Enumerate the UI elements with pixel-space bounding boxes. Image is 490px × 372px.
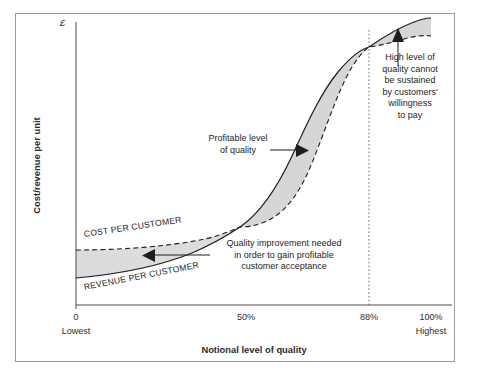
x-tick-label-50: 50% xyxy=(219,312,273,323)
x-axis-title: Notional level of quality xyxy=(75,344,433,355)
annotation-profitable-level: Profitable level of quality xyxy=(198,133,278,156)
x-tick-sublabel-lowest: Lowest xyxy=(49,326,103,337)
y-axis-currency-symbol: £ xyxy=(60,18,65,29)
region-unsustainable xyxy=(369,18,431,47)
x-tick-sublabel-highest: Highest xyxy=(404,326,458,337)
y-axis-title: Cost/revenue per unit xyxy=(31,86,42,246)
x-tick-label-88: 88% xyxy=(342,312,396,323)
annotation-high-level-quality: High level of quality cannot be sustaine… xyxy=(372,52,448,121)
x-tick-label-100: 100% xyxy=(404,312,458,323)
chart-figure: £ Cost/revenue per unit Notional level o… xyxy=(0,0,490,372)
x-tick-label-0: 0 xyxy=(49,312,103,323)
annotation-quality-improvement: Quality improvement needed in order to g… xyxy=(214,238,354,273)
